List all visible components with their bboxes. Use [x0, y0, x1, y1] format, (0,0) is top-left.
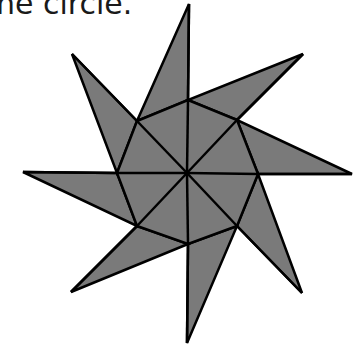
blade-edge	[187, 244, 188, 343]
spoke-line	[187, 173, 258, 174]
blade-edge	[23, 172, 117, 173]
spoke-line	[187, 100, 188, 173]
eight-pointed-star-figure	[0, 0, 362, 350]
spoke-line	[187, 173, 188, 244]
blade-edge	[188, 4, 189, 100]
star-blade	[187, 226, 237, 343]
